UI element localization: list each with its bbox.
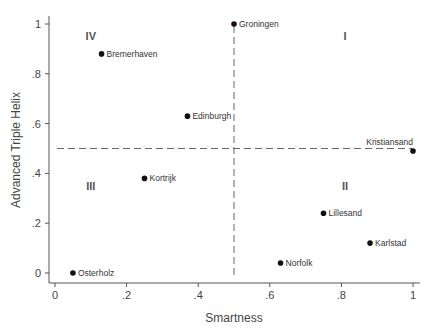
point-label: Osterholz	[78, 268, 114, 278]
data-point	[70, 270, 76, 276]
point-label: Kortrijk	[150, 173, 177, 183]
y-tick-label: 0	[35, 267, 41, 279]
quadrant-label: IV	[86, 30, 97, 42]
point-label: Edinburgh	[192, 111, 231, 121]
point-label: Norfolk	[286, 258, 314, 268]
x-tick-label: .8	[337, 289, 346, 301]
point-label: Groningen	[239, 19, 279, 29]
data-point	[99, 51, 105, 57]
x-tick-label: 0	[52, 289, 58, 301]
data-point	[367, 240, 373, 246]
point-label: Kristiansand	[366, 137, 413, 147]
point-label: Karlstad	[375, 238, 406, 248]
y-axis-label: Advanced Triple Helix	[9, 92, 23, 208]
data-point	[185, 113, 191, 119]
x-tick-label: .2	[122, 289, 131, 301]
quadrant-label: II	[342, 180, 348, 192]
y-tick-label: .2	[32, 217, 41, 229]
point-label: Bremerhaven	[107, 49, 158, 59]
data-point	[142, 176, 148, 182]
point-label: Lillesand	[329, 208, 363, 218]
chart-canvas: 0.2.4.6.810.2.4.6.81SmartnessAdvanced Tr…	[0, 0, 446, 334]
y-tick-label: 1	[35, 18, 41, 30]
x-tick-label: .4	[194, 289, 203, 301]
y-tick-label: .4	[32, 167, 41, 179]
data-point	[231, 21, 237, 27]
y-tick-label: .6	[32, 118, 41, 130]
x-axis-label: Smartness	[205, 311, 262, 325]
quadrant-label: III	[86, 180, 95, 192]
data-point	[321, 210, 327, 216]
data-point	[278, 260, 284, 266]
scatter-chart: 0.2.4.6.810.2.4.6.81SmartnessAdvanced Tr…	[0, 0, 446, 334]
x-tick-label: 1	[410, 289, 416, 301]
quadrant-label: I	[343, 30, 346, 42]
data-point	[410, 148, 416, 154]
x-tick-label: .6	[265, 289, 274, 301]
y-tick-label: .8	[32, 68, 41, 80]
